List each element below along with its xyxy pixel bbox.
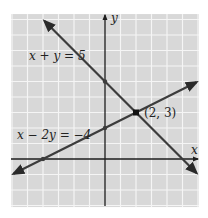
x-axis-label: x <box>191 143 198 157</box>
line2-equation-label: x − 2y = −4 <box>17 128 91 142</box>
data-point <box>103 126 107 130</box>
intersection-label: (2, 3) <box>144 106 176 120</box>
y-axis-label: y <box>110 11 118 25</box>
data-point <box>41 157 45 161</box>
data-point <box>103 79 107 83</box>
graph-figure: y x x + y = 5 x − 2y = −4 (2, 3) <box>0 0 208 218</box>
intersection-point <box>133 110 139 116</box>
coordinate-plane: y x x + y = 5 x − 2y = −4 (2, 3) <box>0 0 208 218</box>
line1-equation-label: x + y = 5 <box>29 49 86 63</box>
